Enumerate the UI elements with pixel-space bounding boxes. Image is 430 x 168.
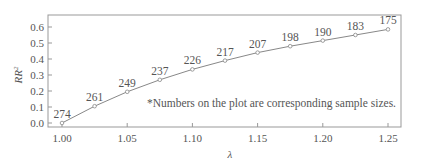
sample-size-label: 217 — [216, 46, 234, 58]
x-axis: 1.001.051.101.151.201.25 — [52, 123, 398, 144]
data-point-marker — [288, 44, 292, 48]
y-tick-label: 0.2 — [30, 85, 44, 97]
sample-size-label: 274 — [53, 108, 71, 120]
y-tick-label: 0.0 — [30, 117, 44, 129]
data-point-marker — [386, 28, 390, 32]
y-tick-label: 0.3 — [30, 69, 44, 81]
x-tick-label: 1.25 — [378, 132, 398, 144]
data-point-marker — [93, 104, 97, 108]
y-tick-label: 0.4 — [30, 53, 44, 65]
data-point-marker — [158, 78, 162, 82]
sample-size-label: 183 — [347, 20, 365, 32]
x-tick-label: 1.05 — [118, 132, 138, 144]
line-chart: 0.00.10.20.30.40.50.6 1.001.051.101.151.… — [0, 0, 430, 168]
y-axis-label: RR2 — [12, 66, 24, 84]
sample-size-label: 226 — [184, 54, 202, 66]
sample-size-label: 249 — [119, 77, 137, 89]
x-tick-label: 1.00 — [52, 132, 72, 144]
y-axis: 0.00.10.20.30.40.50.6 — [30, 21, 52, 129]
data-point-marker — [256, 51, 260, 55]
y-tick-label: 0.6 — [30, 21, 44, 33]
data-point-marker — [191, 68, 195, 72]
y-tick-label: 0.5 — [30, 37, 44, 49]
sample-size-label: 207 — [249, 38, 267, 50]
data-point-marker — [321, 39, 325, 43]
annotation: *Numbers on the plot are corresponding s… — [147, 97, 396, 110]
x-tick-label: 1.20 — [313, 132, 333, 144]
x-tick-label: 1.10 — [183, 132, 203, 144]
x-tick-label: 1.15 — [248, 132, 268, 144]
data-point-marker — [60, 121, 64, 125]
sample-size-label: 237 — [151, 65, 169, 77]
sample-size-label: 175 — [379, 14, 397, 26]
data-point-marker — [354, 33, 358, 37]
data-point-marker — [223, 59, 227, 63]
sample-size-label: 198 — [282, 31, 300, 43]
sample-size-label: 261 — [86, 91, 104, 103]
y-tick-label: 0.1 — [30, 101, 44, 113]
data-point-marker — [125, 90, 129, 94]
x-axis-label: λ — [227, 148, 233, 160]
sample-size-label: 190 — [314, 26, 332, 38]
